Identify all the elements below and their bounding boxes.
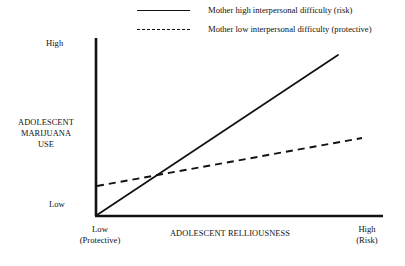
y-axis-title-line-2: MARIJUANA — [0, 128, 92, 139]
x-axis-tick-high-line-1: High — [338, 224, 396, 235]
y-axis-tick-low: Low — [49, 199, 65, 210]
y-axis-title: ADOLESCENT MARIJUANA USE — [0, 117, 92, 151]
x-axis-title: ADOLESCENT RELLIOUSNESS — [120, 229, 340, 238]
y-axis-title-line-1: ADOLESCENT — [0, 117, 92, 128]
y-axis-tick-high: High — [46, 38, 63, 49]
series-line-mother-low-dashed — [97, 138, 362, 186]
x-axis-tick-high: High (Risk) — [338, 224, 396, 246]
series-line-mother-high-solid — [97, 55, 338, 215]
x-axis-tick-high-line-2: (Risk) — [338, 235, 396, 246]
y-axis-title-line-3: USE — [0, 139, 92, 150]
interaction-plot-figure: Mother high interpersonal difficulty (ri… — [0, 0, 405, 266]
